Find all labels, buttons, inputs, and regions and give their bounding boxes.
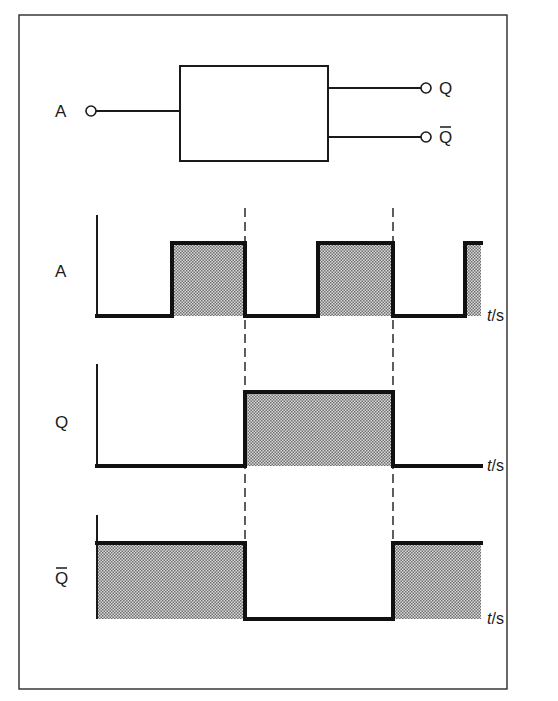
time-axis-label: t/s <box>487 307 504 324</box>
output-q-bar: Q <box>328 127 452 147</box>
high-level-fill <box>172 243 245 316</box>
output-q: Q <box>328 79 452 98</box>
input-label: A <box>55 102 67 121</box>
terminal-circle-icon <box>86 106 96 116</box>
signal-label: Q <box>55 569 68 588</box>
time-axis-label: t/s <box>487 457 504 474</box>
output-label: Q <box>439 128 452 147</box>
high-level-fill <box>318 243 393 316</box>
waveform <box>97 243 481 316</box>
timing-diagram: At/sQt/sQt/s <box>55 208 504 627</box>
high-level-fill <box>393 543 481 619</box>
gate-box <box>180 66 328 161</box>
output-label: Q <box>439 79 452 98</box>
high-level-fill <box>245 392 393 466</box>
flip-flop-timing-diagram: A QQ At/sQt/sQt/s <box>0 0 558 701</box>
signal-label: Q <box>55 413 68 432</box>
gate-block-diagram: A QQ <box>55 66 452 161</box>
terminal-circle-icon <box>421 83 431 93</box>
signal-label: A <box>55 262 67 281</box>
signal-a: At/s <box>55 215 504 324</box>
input-terminal-a: A <box>55 102 180 121</box>
high-level-fill <box>97 543 245 619</box>
output-terminals: QQ <box>328 79 452 147</box>
high-level-shading <box>97 243 481 619</box>
time-axis-label: t/s <box>487 610 504 627</box>
terminal-circle-icon <box>421 132 431 142</box>
high-level-fill <box>465 243 481 316</box>
